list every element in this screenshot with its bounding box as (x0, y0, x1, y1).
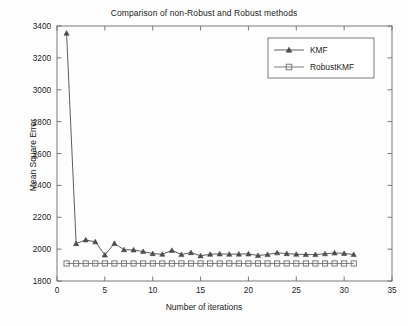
triangle-marker (169, 248, 174, 253)
x-tick-label: 15 (196, 286, 206, 295)
x-tick-label: 30 (340, 286, 350, 295)
y-tick-label: 2800 (33, 118, 52, 127)
chart-legend[interactable]: KMFRobustKMF (268, 38, 374, 78)
y-tick-label: 3000 (33, 86, 52, 95)
y-tick-label: 3200 (33, 54, 52, 63)
triangle-marker (112, 241, 117, 246)
x-tick-label: 25 (292, 286, 302, 295)
x-tick-label: 20 (244, 286, 254, 295)
x-tick-label: 5 (103, 286, 108, 295)
y-tick-label: 1800 (33, 277, 52, 286)
x-tick-label: 10 (148, 286, 158, 295)
y-tick-label: 2200 (33, 213, 52, 222)
y-tick-label: 2000 (33, 245, 52, 254)
triangle-marker (64, 31, 69, 36)
y-tick-label: 2600 (33, 150, 52, 159)
legend-label: RobustKMF (310, 62, 354, 72)
y-tick-label: 2400 (33, 181, 52, 190)
y-tick-label: 3400 (33, 22, 52, 31)
figure-canvas: Comparison of non-Robust and Robust meth… (0, 0, 408, 326)
series-robustkmf (64, 261, 356, 266)
legend-label: KMF (310, 45, 328, 55)
plot-area: 05101520253035 1800200022002400260028003… (0, 0, 408, 326)
triangle-marker (188, 250, 193, 255)
x-tick-label: 0 (55, 286, 60, 295)
triangle-marker (83, 237, 88, 242)
x-tick-label: 35 (387, 286, 397, 295)
